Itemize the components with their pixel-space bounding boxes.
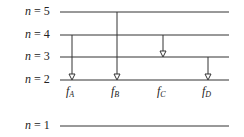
transition-label-D: fD [202,85,211,101]
arrowhead-icon [114,74,120,80]
transition-arrows [69,12,211,80]
arrowhead-icon [69,74,75,80]
level-label-n4: n = 4 [25,28,50,40]
level-label-n2: n = 2 [25,73,50,85]
arrowhead-icon [205,74,211,80]
level-label-n1: n = 1 [25,119,50,131]
level-label-n3: n = 3 [25,50,50,62]
energy-level-diagram [0,0,244,137]
transition-label-C: fC [157,85,166,101]
transition-label-A: fA [66,85,74,101]
transition-label-B: fB [111,85,119,101]
arrowhead-icon [160,51,166,57]
energy-level-lines [60,12,229,126]
level-label-n5: n = 5 [25,5,50,17]
